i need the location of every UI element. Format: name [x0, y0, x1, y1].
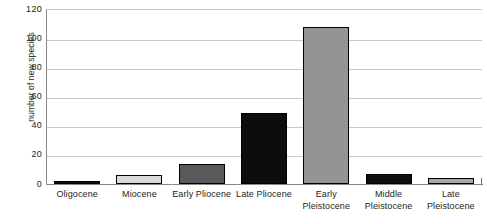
x-axis-tick-label-line: Early	[295, 189, 357, 201]
x-axis-tick-label: LatePleistocene	[420, 189, 482, 212]
x-axis-tick-label: Early Pliocene	[171, 189, 233, 201]
x-axis-tick-label-line: Pleistocene	[295, 201, 357, 213]
x-axis-tick-label-line: Late	[420, 189, 482, 201]
x-axis-tick-label: Late Pliocene	[233, 189, 295, 201]
bar	[179, 164, 225, 184]
bar	[54, 181, 100, 184]
x-axis-tick-label-line: Late Pliocene	[233, 189, 295, 201]
bar	[366, 174, 412, 184]
x-axis-tick-label-line: Miocene	[108, 189, 170, 201]
x-axis-tick-label-line: Middle	[357, 189, 419, 201]
bar	[428, 178, 474, 184]
x-axis-tick-label: Miocene	[108, 189, 170, 201]
x-axis-tick-labels: OligoceneMioceneEarly PlioceneLate Plioc…	[0, 189, 487, 224]
bar-chart: number of new species 020406080100120 Ol…	[0, 0, 487, 224]
x-axis-tick-label-line: Pleistocene	[357, 201, 419, 213]
x-axis-tick-label-line: Pleistocene	[420, 201, 482, 213]
x-axis-tick-label: Oligocene	[46, 189, 108, 201]
bar	[116, 175, 162, 184]
bar	[303, 27, 349, 184]
x-axis-tick-label-line: Oligocene	[46, 189, 108, 201]
bar	[241, 113, 287, 184]
x-axis-tick-label-line: Early Pliocene	[171, 189, 233, 201]
x-axis-tick-label: MiddlePleistocene	[357, 189, 419, 212]
x-axis-tick-label: EarlyPleistocene	[295, 189, 357, 212]
